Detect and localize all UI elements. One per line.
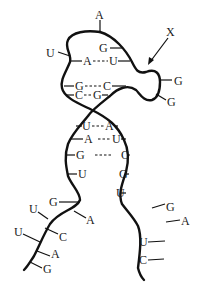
left-u2: U bbox=[29, 202, 38, 216]
right-a1: A bbox=[181, 214, 190, 228]
tick-left-u3 bbox=[23, 234, 40, 242]
pair6-right: C bbox=[121, 148, 129, 162]
right-g2: G bbox=[166, 200, 175, 214]
pointer-arrow bbox=[150, 38, 168, 62]
pair1-left: A bbox=[83, 54, 92, 68]
rna-strand-left-top bbox=[62, 31, 144, 280]
left-c1: C bbox=[59, 230, 67, 244]
tick-right-g2 bbox=[152, 204, 165, 208]
left-g2: G bbox=[43, 262, 52, 276]
tick-right-a1 bbox=[166, 220, 180, 222]
pair6-left: G bbox=[76, 148, 85, 162]
left-u1: U bbox=[78, 167, 87, 181]
bulge-g1: G bbox=[174, 74, 183, 88]
left-u3: U bbox=[14, 225, 23, 239]
tick-left-a1 bbox=[74, 211, 86, 218]
base-top-a: A bbox=[95, 8, 104, 22]
left-g1: G bbox=[49, 195, 58, 209]
tick-right-c1 bbox=[148, 259, 164, 260]
tick-left-a2 bbox=[37, 251, 50, 256]
base-loop-g: G bbox=[99, 41, 108, 55]
pair5-right: U bbox=[112, 132, 121, 146]
pointer-label-x: X bbox=[166, 25, 175, 39]
pair4-right: A bbox=[105, 119, 114, 133]
tick-left-g2 bbox=[30, 262, 42, 268]
left-a2: A bbox=[51, 247, 60, 261]
pair3-right: G bbox=[93, 88, 102, 102]
rna-structure-diagram: A U G A U X G G G C C G U A A U G C U G bbox=[0, 0, 203, 285]
left-a1: A bbox=[86, 213, 95, 227]
tick-right-u2 bbox=[148, 241, 165, 242]
base-loop-u: U bbox=[46, 46, 55, 60]
right-u2: U bbox=[139, 235, 148, 249]
bulge-g2: G bbox=[167, 95, 176, 109]
pair2-right: C bbox=[103, 79, 111, 93]
pair4-left: U bbox=[82, 119, 91, 133]
pair5-left: A bbox=[84, 132, 93, 146]
pair3-left: C bbox=[75, 88, 83, 102]
right-c1: C bbox=[139, 253, 147, 267]
pair1-right: U bbox=[109, 54, 118, 68]
tick-left-u2 bbox=[38, 212, 48, 219]
